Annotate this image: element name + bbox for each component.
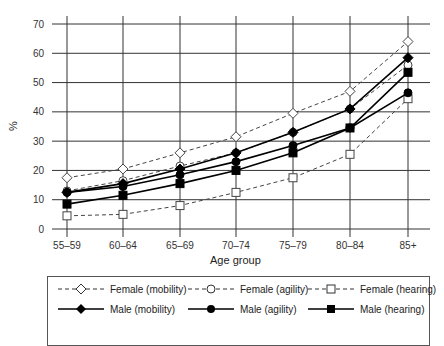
x-axis-label: Age group: [210, 254, 261, 266]
x-tick-label: 75–79: [279, 240, 307, 251]
filled-square-icon: [308, 303, 354, 315]
square-marker: [289, 174, 297, 182]
square-marker: [232, 166, 240, 174]
square-marker: [119, 210, 127, 218]
square-marker: [404, 68, 412, 76]
series-line: [67, 93, 408, 193]
y-tick-label: 40: [33, 106, 45, 117]
square-marker: [346, 150, 354, 158]
diamond-marker: [288, 127, 298, 137]
x-tick-label: 65–69: [166, 240, 194, 251]
circle-marker: [404, 89, 412, 97]
y-tick-label: 70: [33, 19, 45, 30]
square-marker: [176, 180, 184, 188]
y-tick-label: 10: [33, 194, 45, 205]
x-tick-label: 70–74: [222, 240, 250, 251]
diamond-marker: [118, 164, 128, 174]
square-marker: [176, 202, 184, 210]
diamond-marker: [288, 108, 298, 118]
square-marker: [289, 149, 297, 157]
y-axis-label: %: [7, 121, 19, 131]
square-marker: [232, 188, 240, 196]
circle-marker: [346, 124, 354, 132]
legend-item-female-hearing: Female (hearing): [308, 283, 436, 295]
legend-item-female-agility: Female (agility): [188, 283, 308, 295]
diamond-marker: [403, 37, 413, 47]
line-chart: 01020304050607055–5960–6465–6970–7475–79…: [0, 0, 444, 275]
y-tick-label: 60: [33, 48, 45, 59]
square-marker: [119, 191, 127, 199]
x-tick-label: 60–64: [109, 240, 137, 251]
open-circle-icon: [188, 283, 234, 295]
y-tick-label: 30: [33, 136, 45, 147]
legend-item-male-mobility: Male (mobility): [58, 303, 175, 315]
x-tick-label: 85+: [400, 240, 417, 251]
y-tick-label: 20: [33, 165, 45, 176]
circle-marker: [232, 158, 240, 166]
legend: Female (mobility) Female (agility) Femal…: [47, 276, 430, 346]
diamond-marker: [175, 148, 185, 158]
y-tick-label: 0: [38, 224, 44, 235]
legend-item-male-agility: Male (agility): [188, 303, 297, 315]
y-tick-label: 50: [33, 77, 45, 88]
diamond-marker: [231, 132, 241, 142]
filled-diamond-icon: [58, 303, 104, 315]
x-tick-label: 55–59: [53, 240, 81, 251]
diamond-marker: [62, 173, 72, 183]
circle-marker: [289, 142, 297, 150]
x-tick-label: 80–84: [336, 240, 364, 251]
square-marker: [63, 200, 71, 208]
filled-circle-icon: [188, 303, 234, 315]
legend-item-male-hearing: Male (hearing): [308, 303, 424, 315]
series-line: [67, 42, 408, 178]
legend-item-female-mobility: Female (mobility): [58, 283, 187, 295]
square-marker: [63, 212, 71, 220]
series-line: [67, 99, 408, 216]
open-square-icon: [308, 283, 354, 295]
diamond-marker: [231, 148, 241, 158]
open-diamond-icon: [58, 283, 104, 295]
